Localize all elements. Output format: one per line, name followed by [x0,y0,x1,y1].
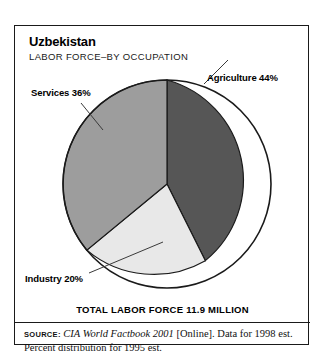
slice-label-agriculture: Agriculture 44% [207,72,278,83]
source-kicker: SOURCE: [24,330,61,339]
source-note: SOURCE: CIA World Factbook 2001 [Online]… [24,327,302,354]
figure-panel: Uzbekistan LABOR FORCE–BY OCCUPATION Agr… [14,25,309,345]
pie-chart: Agriculture 44% Services 36% Industry 20… [15,26,310,301]
source-work-title: CIA World Factbook 2001 [63,328,174,339]
slice-label-services: Services 36% [31,87,91,98]
slice-label-industry: Industry 20% [25,273,83,284]
total-labor-force-label: TOTAL LABOR FORCE 11.9 MILLION [15,304,310,315]
pie-chart-svg [15,26,310,301]
source-divider [15,322,310,323]
